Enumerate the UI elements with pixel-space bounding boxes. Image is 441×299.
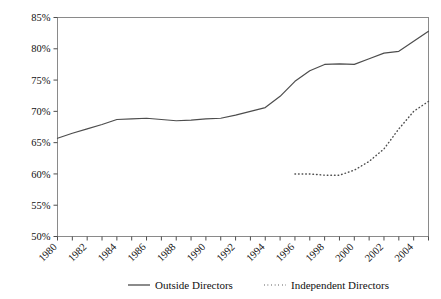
y-axis-tick-label: 75% (31, 75, 51, 86)
x-axis-tick-label: 1980 (36, 241, 59, 264)
y-axis-tick-label: 55% (31, 200, 51, 211)
x-axis-tick-label: 1984 (96, 241, 119, 264)
plot-frame (58, 18, 429, 237)
x-axis-tick-label: 2002 (363, 241, 386, 264)
y-axis-tick-label: 85% (31, 12, 51, 23)
x-axis-tick-label: 2000 (333, 241, 356, 264)
y-axis-tick-label: 50% (31, 231, 51, 242)
y-axis-tick-label: 60% (31, 169, 51, 180)
legend-label-1: Independent Directors (291, 279, 389, 291)
x-axis-tick-label: 1996 (274, 241, 297, 264)
chart-container: 85%80%75%70%65%60%55%50%1980198219841986… (0, 0, 441, 299)
legend-label-0: Outside Directors (155, 279, 233, 291)
x-axis-tick-label: 1998 (303, 241, 326, 264)
x-axis-tick-label: 2004 (392, 241, 415, 264)
x-axis-tick-label: 1982 (66, 241, 89, 264)
y-axis-tick-label: 80% (31, 43, 51, 54)
line-chart: 85%80%75%70%65%60%55%50%1980198219841986… (0, 0, 441, 299)
x-axis-tick-label: 1990 (185, 241, 208, 264)
x-axis-tick-label: 1988 (155, 241, 178, 264)
x-axis-tick-label: 1994 (244, 241, 267, 264)
x-axis-tick-label: 1986 (125, 241, 148, 264)
series-line-0 (58, 31, 429, 138)
y-axis-tick-label: 70% (31, 106, 51, 117)
x-axis-tick-label: 1992 (214, 241, 237, 264)
y-axis-tick-label: 65% (31, 137, 51, 148)
series-line-1 (295, 101, 429, 175)
